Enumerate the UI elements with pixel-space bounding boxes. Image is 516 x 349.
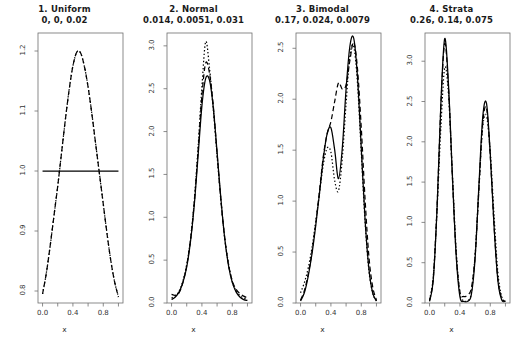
y-tick-label: 2.0 — [277, 89, 285, 107]
y-tick-label: 2.0 — [406, 132, 414, 150]
x-axis-label: x — [0, 325, 129, 334]
panel-2: 2. Normal0.014, 0.0051, 0.0310.00.51.01.… — [129, 0, 258, 349]
x-tick-label: 0.4 — [449, 309, 471, 317]
x-axis-label: x — [129, 325, 258, 334]
x-tick-label: 0.8 — [350, 309, 372, 317]
series-group — [301, 36, 377, 301]
panel-3: 3. Bimodal0.17, 0.024, 0.00790.00.51.01.… — [258, 0, 387, 349]
x-tick-label: 0.8 — [221, 309, 243, 317]
y-tick-label: 0.5 — [277, 242, 285, 260]
series-group — [172, 41, 248, 300]
y-tick-label: 1.5 — [148, 164, 156, 182]
y-tick-label: 0.9 — [19, 221, 27, 239]
y-tick-label: 2.0 — [148, 122, 156, 140]
series-line-estimate-dashed — [430, 43, 506, 301]
plot-box-frame — [38, 33, 123, 303]
y-tick-label: 0.0 — [277, 293, 285, 311]
y-tick-label: 1.2 — [19, 41, 27, 59]
plot-box-frame — [425, 33, 510, 303]
x-axis-label: x — [387, 325, 516, 334]
y-tick-label: 0.5 — [406, 253, 414, 271]
y-tick-label: 0.0 — [148, 293, 156, 311]
x-axis-label: x — [258, 325, 387, 334]
y-tick-label: 2.5 — [277, 38, 285, 56]
panel-4: 4. Strata0.26, 0.14, 0.0750.00.51.01.52.… — [387, 0, 516, 349]
x-tick-label: 0.4 — [191, 309, 213, 317]
series-line-true-density — [301, 36, 377, 301]
series-group — [430, 38, 506, 302]
y-tick-label: 2.5 — [406, 92, 414, 110]
y-tick-label: 0.5 — [148, 250, 156, 268]
y-tick-label: 1.0 — [148, 207, 156, 225]
y-tick-label: 1.1 — [19, 101, 27, 119]
y-tick-label: 1.5 — [277, 140, 285, 158]
y-tick-label: 1.5 — [406, 172, 414, 190]
y-tick-label: 3.0 — [148, 36, 156, 54]
series-line-estimate-dashed — [172, 62, 248, 298]
series-line-estimate-dashed — [301, 42, 377, 300]
plot-box-frame — [167, 33, 252, 303]
series-line-estimate-dashed — [43, 51, 119, 297]
x-tick-label: 0.0 — [161, 309, 183, 317]
panel-1: 1. Uniform0, 0, 0.020.80.91.01.11.20.00.… — [0, 0, 129, 349]
x-tick-label: 0.8 — [479, 309, 501, 317]
y-tick-label: 1.0 — [277, 191, 285, 209]
x-tick-label: 0.4 — [320, 309, 342, 317]
series-group — [43, 51, 119, 297]
y-tick-label: 1.0 — [406, 212, 414, 230]
x-tick-label: 0.0 — [290, 309, 312, 317]
series-line-true-density — [172, 76, 248, 301]
series-line-estimate-dotted — [43, 51, 119, 297]
series-line-true-density — [430, 38, 506, 302]
y-tick-label: 2.5 — [148, 79, 156, 97]
y-tick-label: 0.0 — [406, 293, 414, 311]
x-tick-label: 0.4 — [62, 309, 84, 317]
x-tick-label: 0.0 — [419, 309, 441, 317]
x-tick-label: 0.8 — [92, 309, 114, 317]
y-tick-label: 3.0 — [406, 51, 414, 69]
x-tick-label: 0.0 — [32, 309, 54, 317]
y-tick-label: 0.8 — [19, 281, 27, 299]
density-estimate-figure: 1. Uniform0, 0, 0.020.80.91.01.11.20.00.… — [0, 0, 516, 349]
y-tick-label: 1.0 — [19, 161, 27, 179]
